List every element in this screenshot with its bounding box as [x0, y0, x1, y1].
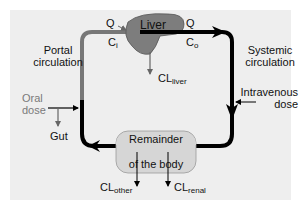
gut-label: Gut — [50, 130, 68, 142]
portal-label-2: circulation — [26, 56, 90, 68]
systemic-label-2: circulation — [238, 56, 301, 68]
q-in-label: Q — [106, 17, 115, 29]
q-out-label: Q — [186, 17, 195, 29]
liver-label: Liver — [140, 19, 166, 31]
remainder-label-1: Remainder — [116, 133, 196, 145]
ci-label: Ci — [108, 36, 118, 52]
remainder-label-2: of the body — [116, 158, 196, 170]
iv-label-2: dose — [236, 98, 298, 110]
q-in-arrow — [118, 26, 126, 30]
systemic-label-1: Systemic — [240, 44, 300, 56]
portal-label-1: Portal — [28, 44, 88, 56]
iv-label-1: Intravenous — [236, 86, 298, 98]
oral-label-1: Oral — [22, 92, 43, 104]
oral-label-2: dose — [22, 104, 46, 116]
cl-other-label: CLother — [100, 181, 132, 197]
cl-liver-label: CLliver — [158, 72, 187, 88]
cl-renal-label: CLrenal — [174, 181, 206, 197]
co-label: Co — [186, 36, 198, 52]
